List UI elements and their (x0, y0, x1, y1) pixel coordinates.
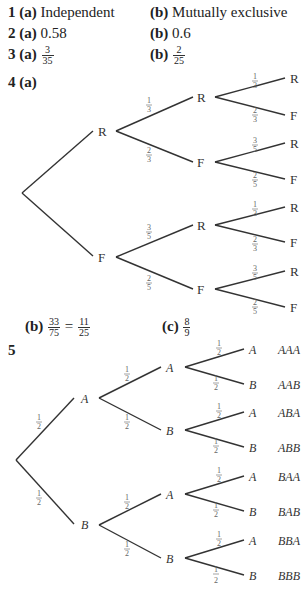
tree-label: 2 (217, 411, 221, 420)
tree-label: 5 (253, 145, 257, 154)
tree-label: 3 (253, 244, 257, 253)
tree-branch (215, 289, 285, 307)
node-l1-0: R (98, 124, 107, 139)
outcome: BBB (278, 569, 301, 583)
tree-label: 1 (217, 530, 221, 539)
tree-label: A (165, 488, 174, 502)
tree-label: 1 (214, 565, 218, 574)
tree-label: 1 (37, 413, 41, 422)
tree-label: 2 (147, 146, 151, 155)
tree-label: 5 (253, 307, 257, 316)
tree-label: R (290, 71, 299, 86)
tree-label: 2 (125, 422, 129, 431)
tree-diagram-5: A B 12 12 A B A B 12 12 12 12 A B A B A … (16, 339, 301, 585)
tree-label: 3 (253, 209, 257, 218)
tree-label: R (290, 264, 299, 279)
tree-branch (99, 398, 161, 430)
tree-branch (185, 476, 244, 494)
tree-label: 5 (147, 283, 151, 292)
tree-label: 1 (217, 402, 221, 411)
tree-branch (215, 97, 285, 115)
tree-branch (116, 131, 193, 162)
tree-label: 1 (147, 96, 151, 105)
outcome: BAA (278, 470, 301, 484)
tree-label: 2 (253, 171, 257, 180)
tree-label: F (290, 172, 297, 187)
tree-label: 1 (125, 413, 129, 422)
tree-label: 5 (253, 273, 257, 282)
tree-label: 2 (37, 422, 41, 431)
tree-label: F (290, 108, 297, 123)
tree-label: A (80, 392, 89, 406)
tree-label: 1 (125, 493, 129, 502)
tree-label: B (81, 518, 89, 532)
tree-label: F (197, 282, 204, 297)
tree-label: 1 (125, 365, 129, 374)
tree-label: 3 (147, 105, 151, 114)
tree-diagrams: R F R F R F 13 23 35 25 R F R F R F R F (0, 0, 307, 593)
tree-label: B (166, 552, 174, 566)
node-l1-1: F (98, 250, 105, 265)
tree-branch (22, 193, 93, 256)
tree-label: 2 (214, 383, 218, 392)
tree-label: B (249, 378, 257, 392)
tree-label: 1 (217, 339, 221, 348)
tree-label: 2 (253, 106, 257, 115)
tree-label: 1 (214, 374, 218, 383)
tree-label: 2 (253, 298, 257, 307)
tree-branch (99, 367, 161, 398)
tree-label: 1 (214, 501, 218, 510)
tree-label: 1 (37, 489, 41, 498)
tree-label: 2 (37, 498, 41, 507)
tree-diagram-4: R F R F R F 13 23 35 25 R F R F R F R F (22, 71, 299, 316)
tree-label: 1 (125, 540, 129, 549)
tree-label: 2 (217, 539, 221, 548)
tree-label: 2 (125, 502, 129, 511)
tree-branch (215, 143, 285, 162)
tree-label: B (249, 505, 257, 519)
tree-label: A (248, 343, 257, 357)
outcome: ABA (277, 406, 301, 420)
tree-label: B (166, 424, 174, 438)
tree-branch (116, 257, 193, 289)
tree-branch (185, 412, 244, 430)
tree-branch (185, 349, 244, 367)
tree-label: A (248, 470, 257, 484)
tree-label: 2 (214, 576, 218, 585)
tree-label: R (197, 218, 206, 233)
tree-label: 2 (217, 475, 221, 484)
outcome: BAB (278, 505, 301, 519)
tree-label: 2 (253, 235, 257, 244)
tree-label: 3 (253, 115, 257, 124)
tree-label: F (290, 300, 297, 315)
tree-label: F (197, 155, 204, 170)
tree-branch (215, 271, 285, 289)
tree-label: A (165, 361, 174, 375)
tree-label: 1 (217, 466, 221, 475)
outcome: BBA (278, 534, 301, 548)
tree-label: 1 (253, 72, 257, 81)
tree-branch (16, 460, 74, 524)
tree-label: 2 (217, 348, 221, 357)
tree-branch (215, 207, 285, 225)
outcome: AAB (277, 378, 301, 392)
tree-label: 3 (147, 223, 151, 232)
tree-label: R (197, 90, 206, 105)
tree-branch (99, 525, 161, 558)
tree-label: 2 (125, 549, 129, 558)
tree-label: A (248, 534, 257, 548)
tree-branch (16, 398, 74, 460)
tree-branch (215, 78, 285, 97)
tree-label: A (248, 406, 257, 420)
tree-branch (99, 494, 161, 525)
tree-label: B (249, 569, 257, 583)
tree-label: 2 (147, 274, 151, 283)
tree-branch (185, 540, 244, 558)
tree-label: 1 (253, 200, 257, 209)
tree-label: F (290, 235, 297, 250)
tree-label: 5 (147, 232, 151, 241)
tree-branch (116, 97, 193, 131)
tree-label: 3 (147, 155, 151, 164)
tree-label: 2 (214, 446, 218, 455)
tree-branch (116, 225, 193, 257)
